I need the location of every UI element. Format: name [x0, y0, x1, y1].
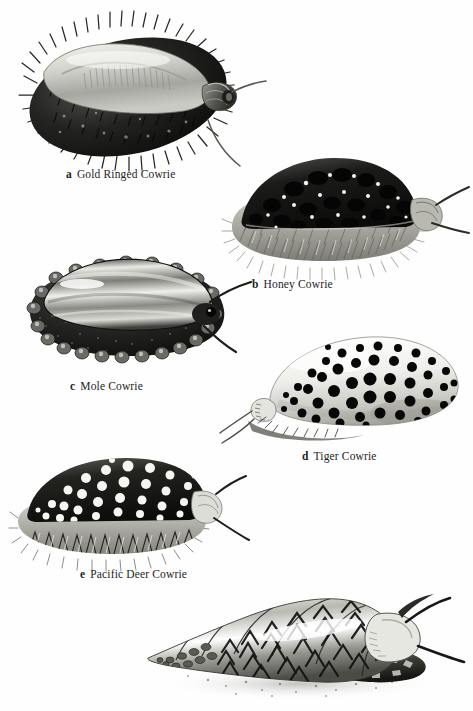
shell-highlight-a: [66, 51, 170, 69]
caption-letter-d: d: [302, 450, 309, 462]
caption-name-d: Tiger Cowrie: [314, 450, 377, 462]
triton-body-f: [148, 594, 464, 700]
mollusk-body-e: [9, 457, 249, 571]
caption-b: bHoney Cowrie: [252, 278, 333, 290]
siphon-c: [192, 303, 220, 325]
caption-letter-e: e: [80, 568, 85, 580]
shell-highlight-c: [60, 279, 104, 289]
caption-name-e: Pacific Deer Cowrie: [90, 568, 187, 580]
caption-letter-a: a: [66, 168, 72, 180]
caption-d: dTiger Cowrie: [302, 450, 377, 462]
caption-e: ePacific Deer Cowrie: [80, 568, 187, 580]
caption-name-a: Gold Ringed Cowrie: [77, 168, 176, 180]
caption-name-c: Mole Cowrie: [80, 380, 143, 392]
caption-name-b: Honey Cowrie: [264, 278, 333, 290]
mollusk-body-d: [220, 337, 466, 443]
caption-a: aGold Ringed Cowrie: [66, 168, 175, 180]
figure-tiger-cowrie: [218, 325, 473, 450]
figure-pacific-deer-cowrie: [8, 448, 253, 570]
siphon-a: [202, 83, 236, 111]
tentacles-d: [220, 411, 254, 443]
caption-letter-c: c: [70, 380, 75, 392]
aperture-d: [251, 398, 276, 421]
illustration-plate: aGold Ringed Cowrie: [0, 0, 473, 711]
mollusk-body-b: [222, 158, 469, 280]
figure-honey-cowrie: [220, 145, 473, 275]
aperture-f: [365, 613, 420, 662]
caption-c: cMole Cowrie: [70, 380, 143, 392]
figure-triton-shell: [130, 580, 473, 711]
siphon-e: [192, 491, 222, 523]
